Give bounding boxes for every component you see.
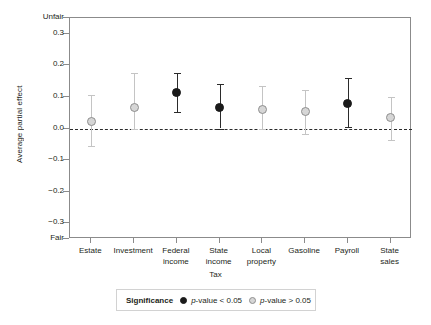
x-tick-mark [347,238,348,243]
x-tick-mark [390,238,391,243]
data-point-marker [301,107,310,116]
error-bar-cap [88,146,95,147]
legend-rest-significant: -value < 0.05 [196,296,242,305]
y-axis-top-label: Unfair [10,13,64,21]
data-point-marker [386,113,395,122]
legend-label-nonsignificant: p-value > 0.05 [260,296,311,305]
filled-dot-icon [180,297,187,304]
legend-label-significant: p-value < 0.05 [191,296,242,305]
data-point-marker [343,99,352,108]
y-tick-label: −0.1 [10,155,64,163]
x-tick-label: Statesales [359,246,421,267]
legend-rest-nonsignificant: -value > 0.05 [265,296,311,305]
x-tick-mark [90,238,91,243]
error-bar-cap [259,86,266,87]
x-tick-mark [176,238,177,243]
error-bar-cap [131,129,138,130]
x-tick-mark [304,238,305,243]
x-tick-mark [133,238,134,243]
error-bar [134,73,135,129]
y-tick-label: 0.0 [10,124,64,132]
error-bar-cap [217,129,224,130]
error-bar-cap [302,134,309,135]
chart-figure: Average partial effect 0.30.20.10.0−0.1−… [0,0,431,325]
error-bar-cap [302,90,309,91]
zero-reference-line [70,129,412,130]
error-bar-cap [174,112,181,113]
legend: Significance p-value < 0.05 p-value > 0.… [116,289,316,311]
error-bar-cap [345,127,352,128]
plot-area [69,17,411,238]
error-bar-cap [345,78,352,79]
data-point-marker [172,88,181,97]
legend-item-nonsignificant: p-value > 0.05 [249,296,311,305]
data-point-marker [215,103,224,112]
data-point-marker [87,117,96,126]
x-axis-title: Tax [0,270,431,279]
error-bar-cap [388,140,395,141]
y-tick-label: 0.1 [10,92,64,100]
error-bar-cap [88,95,95,96]
error-bar-cap [259,129,266,130]
data-point-marker [130,103,139,112]
y-tick-label: −0.3 [10,218,64,226]
y-axis-bottom-label: Fair [10,234,64,242]
error-bar-cap [131,73,138,74]
open-dot-icon [249,297,256,304]
data-point-marker [258,105,267,114]
x-tick-mark [219,238,220,243]
error-bar-cap [217,84,224,85]
y-tick-label: 0.3 [10,29,64,37]
y-tick-label: 0.2 [10,60,64,68]
legend-item-significant: p-value < 0.05 [180,296,242,305]
error-bar-cap [388,97,395,98]
error-bar-cap [174,73,181,74]
x-tick-mark [261,238,262,243]
y-tick-label: −0.2 [10,187,64,195]
legend-title: Significance [126,296,173,305]
